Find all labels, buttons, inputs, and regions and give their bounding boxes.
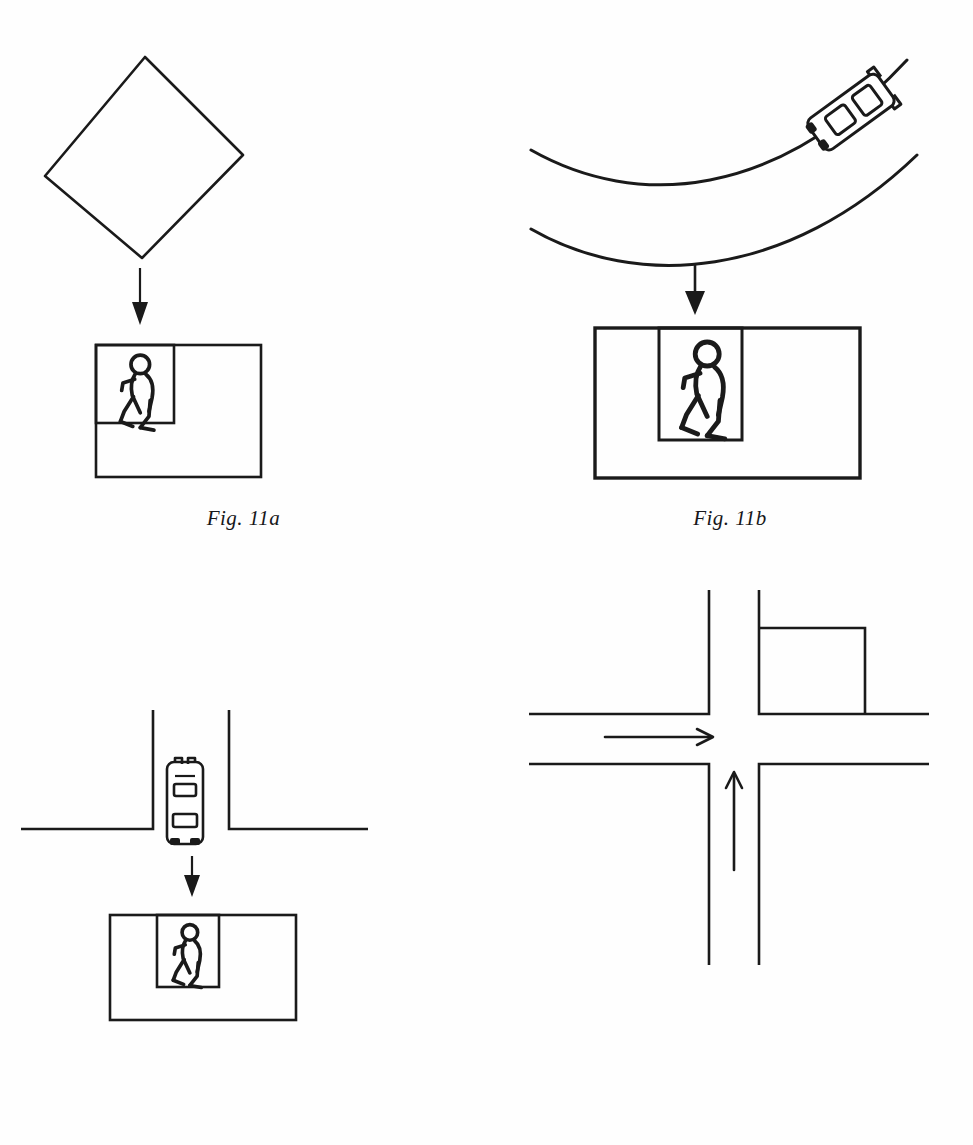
pedestrian-figure-icon [120, 355, 153, 430]
panel-11b-artwork [487, 0, 973, 506]
response-field-box [96, 345, 261, 477]
figure-panel-11d: Fig. 11d [487, 572, 973, 1145]
panel-11c-artwork [0, 572, 487, 1034]
figure-sheet: Fig. 11a [0, 0, 973, 1145]
vehicle-wheel-right [190, 838, 200, 845]
response-field-box [110, 915, 296, 1020]
down-arrow-icon [685, 265, 705, 315]
panel-11d-artwork [487, 572, 973, 1034]
pedestrian-figure-icon [173, 925, 201, 988]
figure-panel-11c: Fig. 11c [0, 572, 487, 1145]
figure-panel-11a: Fig. 11a [0, 0, 487, 572]
pedestrian-figure-icon [682, 342, 725, 439]
figure-panel-11b: Fig. 11b [487, 0, 973, 572]
diamond-sign-icon [45, 57, 243, 258]
panel-11a-artwork [0, 0, 487, 506]
response-field-box [595, 328, 860, 478]
panel-caption-11b: Fig. 11b [487, 506, 973, 531]
northbound-arrow-icon [726, 772, 742, 870]
down-arrow-icon [184, 856, 200, 897]
vehicle-icon [167, 758, 203, 845]
panel-caption-11a: Fig. 11a [0, 506, 487, 531]
crossroads-icon [529, 590, 929, 965]
down-arrow-icon [132, 268, 148, 325]
eastbound-arrow-icon [605, 729, 713, 745]
vehicle-wheel-left [170, 838, 180, 845]
